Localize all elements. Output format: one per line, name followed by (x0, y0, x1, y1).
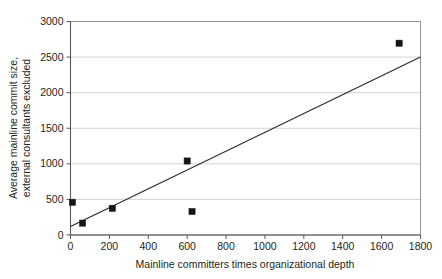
data-point-1 (79, 220, 85, 226)
y-tick-label-2500: 2500 (40, 51, 64, 63)
y-tick-label-0: 0 (58, 229, 64, 241)
y-tick-label-1000: 1000 (40, 157, 64, 169)
y-tick-label-500: 500 (46, 193, 64, 205)
data-point-2 (109, 205, 115, 211)
x-axis-title: Mainline committers times organizational… (136, 258, 355, 270)
x-tick-label-400: 400 (140, 240, 158, 252)
data-point-4 (189, 208, 195, 214)
x-tick-label-800: 800 (217, 240, 235, 252)
x-tick-label-1400: 1400 (331, 240, 355, 252)
y-tick-label-1500: 1500 (40, 122, 64, 134)
x-tick-label-1600: 1600 (370, 240, 394, 252)
scatter-chart: 050010001500200025003000 020040060080010… (0, 0, 442, 279)
x-tick-label-1000: 1000 (253, 240, 277, 252)
x-tick-label-1800: 1800 (409, 240, 433, 252)
x-tick-label-600: 600 (178, 240, 196, 252)
data-point-0 (69, 199, 75, 205)
y-tick-label-2000: 2000 (40, 86, 64, 98)
chart-background (0, 0, 442, 279)
x-tick-label-1200: 1200 (292, 240, 316, 252)
x-tick-label-0: 0 (68, 240, 74, 252)
y-axis-title-line1: Average mainline commit size, (7, 57, 19, 199)
y-tick-label-3000: 3000 (40, 15, 64, 27)
y-axis-title-line2: external consultants excluded (20, 59, 32, 197)
x-tick-label-200: 200 (101, 240, 119, 252)
data-point-3 (184, 158, 190, 164)
chart-canvas: 050010001500200025003000 020040060080010… (0, 0, 442, 279)
data-point-5 (396, 40, 402, 46)
